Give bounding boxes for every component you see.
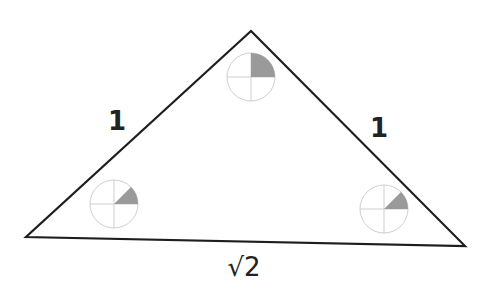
- angle-indicator-apex: [227, 53, 275, 101]
- angle-indicator-right: [360, 185, 408, 233]
- triangle-diagram: 1 1 √2: [0, 0, 486, 307]
- side-label-base: √2: [227, 252, 260, 282]
- side-label-right: 1: [370, 113, 388, 143]
- angle-indicator-left: [90, 180, 138, 228]
- side-label-left: 1: [108, 106, 126, 136]
